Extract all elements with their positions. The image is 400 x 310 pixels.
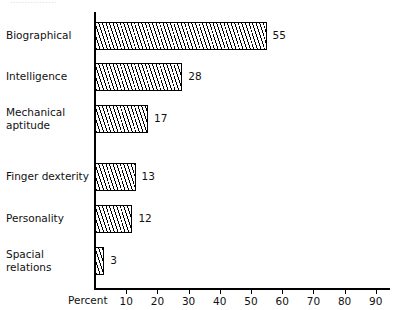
bar-chart: ................ Percent 102030405060708…	[0, 0, 400, 310]
category-label: Personality	[6, 212, 90, 225]
x-tick-label: 90	[369, 295, 382, 307]
bar-value-label: 28	[188, 70, 201, 82]
x-tick	[126, 288, 127, 294]
x-tick-label: 60	[276, 295, 289, 307]
x-tick-label: 30	[182, 295, 195, 307]
category-label: Biographical	[6, 29, 90, 42]
bar	[95, 205, 132, 233]
bar-value-label: 17	[154, 112, 167, 124]
x-axis-line	[94, 288, 390, 290]
category-label: Spacialrelations	[6, 248, 90, 273]
x-tick-label: 70	[307, 295, 320, 307]
x-tick	[345, 288, 346, 294]
category-label: Intelligence	[6, 70, 90, 83]
category-label: Finger dexterity	[6, 170, 90, 183]
bar	[95, 22, 267, 50]
x-tick	[282, 288, 283, 294]
x-tick-label: 80	[338, 295, 351, 307]
bar-value-label: 3	[110, 254, 117, 266]
bar-value-label: 12	[138, 212, 151, 224]
x-tick-label: 20	[151, 295, 164, 307]
plot-area: Percent 102030405060708090 BiographicalI…	[0, 0, 400, 310]
x-tick-label: 40	[213, 295, 226, 307]
category-label: Mechanicalaptitude	[6, 106, 90, 131]
x-axis-label: Percent	[68, 294, 108, 306]
x-tick-label: 10	[120, 295, 133, 307]
x-tick	[313, 288, 314, 294]
bar	[95, 163, 136, 191]
bar-value-label: 13	[142, 170, 155, 182]
x-tick	[220, 288, 221, 294]
x-tick	[189, 288, 190, 294]
x-tick	[157, 288, 158, 294]
bar-value-label: 55	[273, 29, 286, 41]
bar	[95, 63, 182, 91]
bar	[95, 105, 148, 133]
x-tick	[251, 288, 252, 294]
x-tick	[376, 288, 377, 294]
x-tick-label: 50	[244, 295, 257, 307]
bar	[95, 247, 104, 275]
